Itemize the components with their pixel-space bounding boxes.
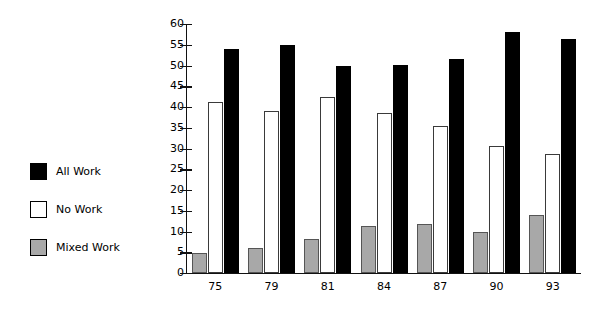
bar-groups [187, 24, 581, 273]
bar [192, 253, 207, 273]
bar-group [361, 24, 408, 273]
bar [304, 239, 319, 273]
legend-swatch-no-work-icon [30, 201, 47, 218]
legend-item-mixed-work: Mixed Work [30, 228, 150, 266]
x-axis-label: 90 [468, 280, 524, 293]
bar-chart-figure: All Work No Work Mixed Work 605550454035… [0, 0, 611, 310]
bar [361, 226, 376, 273]
bar [505, 32, 520, 273]
bar [473, 232, 488, 274]
bar-group [529, 24, 576, 273]
bar [393, 65, 408, 273]
bar [433, 126, 448, 273]
bar [336, 66, 351, 274]
bar-group [192, 24, 239, 273]
bar [377, 113, 392, 273]
x-axis-label: 75 [187, 280, 243, 293]
bar [561, 39, 576, 273]
y-axis-tick-mark [180, 273, 192, 274]
bar [280, 45, 295, 273]
x-axis-label: 93 [525, 280, 581, 293]
bar [489, 146, 504, 273]
bar-group [417, 24, 464, 273]
x-axis-label: 87 [412, 280, 468, 293]
x-axis-label: 79 [243, 280, 299, 293]
bar [320, 97, 335, 273]
legend-item-all-work: All Work [30, 152, 150, 190]
bar [264, 111, 279, 273]
bar [529, 215, 544, 273]
bar-group [304, 24, 351, 273]
legend-swatch-all-work-icon [30, 163, 47, 180]
bar [208, 102, 223, 273]
x-axis-label: 84 [356, 280, 412, 293]
x-axis-label: 81 [300, 280, 356, 293]
bar [248, 248, 263, 273]
plot-area: 605550454035302520151050 75798184879093 [150, 18, 590, 293]
legend-swatch-mixed-work-icon [30, 239, 47, 256]
bar [417, 224, 432, 273]
bar [449, 59, 464, 273]
legend-label-all-work: All Work [56, 166, 101, 177]
legend-label-mixed-work: Mixed Work [56, 242, 120, 253]
legend-item-no-work: No Work [30, 190, 150, 228]
legend-label-no-work: No Work [56, 204, 102, 215]
chart-legend: All Work No Work Mixed Work [30, 152, 150, 266]
bar-group [473, 24, 520, 273]
bar [545, 154, 560, 273]
bar [224, 49, 239, 273]
bar-group [248, 24, 295, 273]
